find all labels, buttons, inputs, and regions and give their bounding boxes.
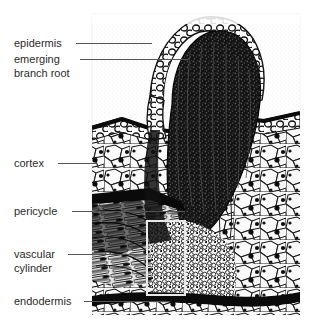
label-emerging-branch-root-line-1: branch root — [14, 67, 70, 79]
label-emerging-branch-root: emerging branch root — [14, 53, 70, 79]
label-pericycle: pericycle — [14, 205, 57, 217]
label-vascular-cylinder-line-0: vascular — [14, 248, 55, 260]
root-cross-section-figure: epidermis emerging branch root cortex pe… — [0, 0, 313, 329]
label-cortex: cortex — [14, 157, 44, 169]
label-epidermis: epidermis — [14, 37, 62, 49]
label-emerging-branch-root-line-0: emerging — [14, 53, 60, 65]
label-epidermis-line-0: epidermis — [14, 37, 62, 49]
label-group: epidermis emerging branch root cortex pe… — [14, 37, 72, 307]
label-vascular-cylinder: vascular cylinder — [14, 248, 58, 274]
label-cortex-line-0: cortex — [14, 157, 44, 169]
label-endodermis: endodermis — [14, 295, 72, 307]
label-pericycle-line-0: pericycle — [14, 205, 57, 217]
label-vascular-cylinder-line-1: cylinder — [14, 262, 52, 274]
label-endodermis-line-0: endodermis — [14, 295, 72, 307]
